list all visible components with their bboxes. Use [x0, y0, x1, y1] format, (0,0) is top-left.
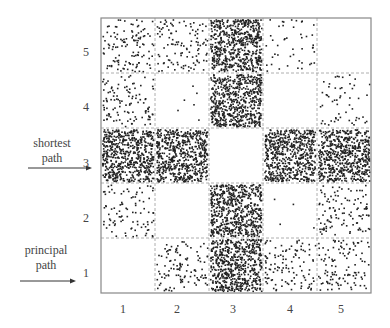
x-tick-1: 1	[113, 302, 133, 317]
y-tick-4: 4	[76, 100, 96, 115]
principal-path-label-line2: path	[14, 258, 78, 273]
y-tick-1: 1	[76, 266, 96, 281]
x-tick-3: 3	[223, 302, 243, 317]
principal-path-label: principal path	[14, 243, 78, 273]
y-tick-5: 5	[76, 45, 96, 60]
scatter-dots	[102, 19, 371, 292]
x-tick-4: 4	[280, 302, 300, 317]
x-tick-5: 5	[331, 302, 351, 317]
shortest-path-label: shortest path	[22, 136, 82, 166]
principal-path-label-line1: principal	[14, 243, 78, 258]
x-tick-2: 2	[167, 302, 187, 317]
y-tick-2: 2	[76, 211, 96, 226]
shortest-path-label-line2: path	[22, 151, 82, 166]
shortest-path-label-line1: shortest	[22, 136, 82, 151]
